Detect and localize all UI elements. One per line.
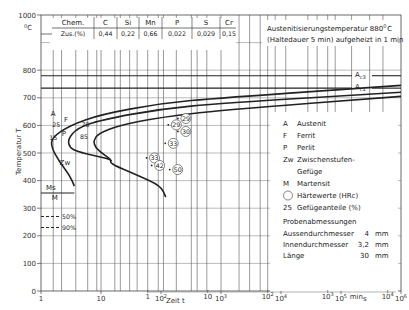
fraction-label: 25 xyxy=(52,121,60,128)
martensite-50pct-label: 50% xyxy=(62,213,76,220)
y-tick-label: 600 xyxy=(23,122,36,130)
y-tick-label: 1000 xyxy=(18,12,36,20)
x-axis-title: Zeit t xyxy=(166,297,185,305)
comp-value-cell: 0,66 xyxy=(143,30,157,37)
y-tick-label: 300 xyxy=(23,205,36,213)
fraction-label: 15 xyxy=(49,134,57,141)
x-tick-label: 105 xyxy=(335,293,347,303)
comp-header-cell: P xyxy=(175,19,179,27)
x-unit-minutes: min xyxy=(350,293,363,301)
hardness-value: 29 xyxy=(172,121,180,128)
specimen-unit: mm xyxy=(375,241,389,249)
specimen-label: Länge xyxy=(283,252,304,260)
legend-text: Gefüge xyxy=(297,168,322,176)
region-label-a: A xyxy=(51,110,56,118)
hardness-value: 50 xyxy=(174,166,182,173)
region-label-f: F xyxy=(64,116,68,124)
x2-tick-label: 103 xyxy=(322,291,334,301)
legend-key: F xyxy=(283,132,287,140)
legend-key: M xyxy=(283,180,289,188)
specimen-label: Innendurchmesser xyxy=(283,241,348,249)
hardness-dot xyxy=(177,118,179,120)
y-tick-label: 0 xyxy=(32,288,36,296)
x2-tick-label: 1 xyxy=(145,293,149,301)
specimen-label: Aussendurchmesser xyxy=(283,230,354,238)
y-tick-label: 500 xyxy=(23,150,36,158)
austenitization-line1: Austenitisierungstemperatur 8800C xyxy=(267,23,392,33)
hardness-dot xyxy=(167,124,169,126)
hardness-dot xyxy=(177,131,179,133)
x2-tick-label: 102 xyxy=(262,291,274,301)
y-tick-label: 400 xyxy=(23,177,36,185)
hardness-value: 42 xyxy=(156,162,164,169)
legend-text: Martensit xyxy=(297,180,330,188)
comp-header-cell: C xyxy=(103,19,108,27)
x-tick-label: 103 xyxy=(215,293,227,303)
ttt-diagram: Chem.CSiMnPSCrZus.(%)0,440,220,660,0220,… xyxy=(0,0,409,310)
legend-key: P xyxy=(283,144,287,152)
hardness-markers: 29293033334250 xyxy=(146,114,191,175)
hardness-value: 33 xyxy=(169,140,177,147)
hardness-dot xyxy=(146,157,148,159)
label-ac3: Ac3 xyxy=(355,71,366,80)
x2-tick-label: 10 xyxy=(203,293,212,301)
comp-value-cell: Zus.(%) xyxy=(61,30,85,37)
y-tick-label: 700 xyxy=(23,94,36,102)
y-tick-label: 100 xyxy=(23,260,36,268)
region-label-p: P xyxy=(62,130,66,138)
y-unit-label: 0C xyxy=(24,23,32,32)
legend-text: Ferrit xyxy=(297,132,316,140)
comp-value-cell: 0,44 xyxy=(98,30,112,37)
comp-header-cell: Si xyxy=(125,19,131,27)
legend-text: Zwischenstufen- xyxy=(297,156,355,164)
hardness-dot xyxy=(151,165,153,167)
fraction-label: 75 xyxy=(81,121,89,128)
hardness-dot xyxy=(164,142,166,144)
comp-value-cell: 0,22 xyxy=(121,30,135,37)
specimen-unit: mm xyxy=(375,252,389,260)
specimen-unit: mm xyxy=(375,230,389,238)
hardness-dot xyxy=(169,169,171,171)
legend-key: 25 xyxy=(283,204,292,212)
ms-label: Ms xyxy=(46,184,56,192)
comp-value-cell: 0,022 xyxy=(168,30,186,37)
specimen-value: 4 xyxy=(365,230,370,238)
austenitization-line2: (Haltedauer 5 min) aufgeheizt in 1 min xyxy=(267,36,403,44)
region-label-m: M xyxy=(52,194,58,202)
hardness-value: 33 xyxy=(151,154,159,161)
hardness-value: 29 xyxy=(182,115,190,122)
x-tick-label: 104 xyxy=(275,293,287,303)
legend-text: Härtewerte (HRc) xyxy=(297,192,358,200)
fraction-label: 85 xyxy=(80,133,88,140)
hardness-value: 30 xyxy=(182,128,190,135)
comp-header-cell: Chem. xyxy=(62,19,85,27)
y-tick-label: 800 xyxy=(23,67,36,75)
x-tick-label: 10 xyxy=(97,295,106,303)
x-tick-label: 1 xyxy=(39,295,43,303)
region-label-zw: Zw xyxy=(60,159,71,167)
legend-text: Gefügeanteile (%) xyxy=(297,204,361,212)
y-tick-label: 200 xyxy=(23,232,36,240)
comp-header-cell: Mn xyxy=(145,19,155,27)
y-axis-title: Temperatur T xyxy=(15,128,23,176)
comp-value-cell: 0,029 xyxy=(197,30,215,37)
comp-value-cell: 0,15 xyxy=(222,30,236,37)
legend-text: Perlit xyxy=(297,144,315,152)
specimen-value: 30 xyxy=(360,252,369,260)
legend-key: A xyxy=(283,120,288,128)
x2-tick-label: 104 xyxy=(382,291,394,301)
legend-bg xyxy=(270,112,398,292)
x-tick-label: 106 xyxy=(395,293,407,303)
comp-header-cell: Cr xyxy=(225,19,233,27)
comp-header-cell: S xyxy=(204,19,209,27)
martensite-start-lines: Ms50%90% xyxy=(41,184,76,231)
specimen-value: 3,2 xyxy=(358,241,369,249)
martensite-90pct-label: 90% xyxy=(62,224,76,231)
x-unit-seconds: s xyxy=(363,295,367,303)
legend-key: Zw xyxy=(283,156,294,164)
legend-text: Austenit xyxy=(297,120,326,128)
specimen-title: Probenabmessungen xyxy=(283,218,357,226)
